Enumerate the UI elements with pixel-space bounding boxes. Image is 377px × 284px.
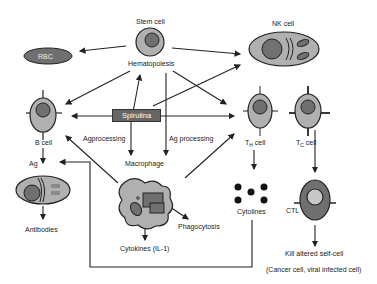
cytokines-label: Cytokines (IL-1) bbox=[120, 245, 169, 252]
stem-cell-label: Stem cell bbox=[136, 18, 165, 25]
kill-label: Kill altered self-cell bbox=[285, 250, 343, 257]
th-cell-label: TH cell bbox=[245, 139, 265, 148]
spirulina-box: Spirulina bbox=[112, 109, 161, 122]
diagram-graphics bbox=[0, 0, 377, 284]
hematopoiesis-label: Hematopoiesis bbox=[128, 60, 174, 67]
kill-note-label: (Cancer cell, viral infected cell) bbox=[266, 266, 361, 273]
macrophage-label: Macrophage bbox=[125, 160, 164, 167]
cytolines-label: Cytolines bbox=[237, 208, 266, 215]
b-cell-label: B cell bbox=[35, 139, 52, 146]
nk-cell-label: NK cell bbox=[272, 20, 294, 27]
rbc-label: RBC bbox=[38, 53, 53, 60]
immune-diagram: Stem cell Hematopoiesis NK cell RBC Spir… bbox=[0, 0, 377, 284]
tc-cell-label: TC cell bbox=[296, 139, 316, 148]
agprocessing-label: Agprocessing bbox=[83, 135, 125, 142]
phagocytosis-label: Phagocytosis bbox=[178, 223, 220, 230]
ag-processing-label: Ag processing bbox=[169, 135, 213, 142]
ctl-label: CTL bbox=[286, 207, 299, 214]
antibodies-label: Antibodies bbox=[25, 226, 58, 233]
ag-label: Ag bbox=[29, 160, 38, 167]
